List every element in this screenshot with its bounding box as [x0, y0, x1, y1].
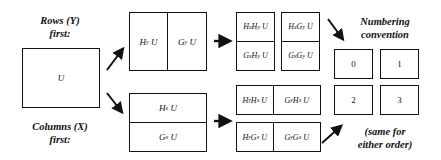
numbering-convention-label: Numbering convention — [345, 15, 425, 41]
numbering-line2: convention — [345, 28, 425, 41]
same-order-line1: (same for — [340, 125, 430, 138]
gxhy-cell: GxHy U — [237, 42, 274, 71]
same-order-label: (same for either order) — [340, 125, 430, 151]
original-image-box: U — [22, 48, 100, 108]
number-1: 1 — [381, 50, 418, 78]
hxgy-cell: HxGy U — [282, 13, 319, 42]
arrow-down-right-icon — [328, 19, 342, 38]
hx-cell: Hx U — [130, 94, 206, 123]
hy-cell: Hy U — [130, 13, 168, 70]
same-order-line2: either order) — [340, 138, 430, 151]
columns-level2-bottom-box: HyGx U GyGx U — [236, 122, 321, 152]
columns-level2-top-box: HyHx U GyHx U — [236, 85, 321, 115]
rows-first-line2: first: — [20, 27, 100, 40]
gygx-cell: GyGx U — [274, 123, 320, 151]
number-box-3: 3 — [380, 85, 419, 115]
arrow-down-icon — [107, 93, 121, 111]
hxhy-cell: HxHy U — [237, 13, 274, 42]
gy-cell: Gy U — [168, 13, 206, 70]
number-3: 3 — [381, 86, 418, 114]
columns-first-label: Columns (X) first: — [15, 120, 105, 146]
rows-first-label: Rows (Y) first: — [20, 14, 100, 40]
rows-level1-box: Hy U Gy U — [129, 12, 207, 71]
gyhx-cell: GyHx U — [274, 86, 320, 114]
number-2: 2 — [335, 86, 372, 114]
hyhx-cell: HyHx U — [237, 86, 274, 114]
number-box-0: 0 — [334, 49, 373, 79]
gxgy-cell: GxGy U — [282, 42, 319, 71]
hygx-cell: HyGx U — [237, 123, 274, 151]
number-box-2: 2 — [334, 85, 373, 115]
arrow-up-right-icon — [322, 127, 340, 143]
arrow-up-icon — [107, 50, 122, 70]
number-0: 0 — [335, 50, 372, 78]
rows-level2-right-box: HxGy U GxGy U — [281, 12, 320, 71]
number-box-1: 1 — [380, 49, 419, 79]
original-cell: U — [23, 49, 99, 107]
rows-level2-left-box: HxHy U GxHy U — [236, 12, 275, 71]
columns-level1-box: Hx U Gx U — [129, 93, 207, 152]
columns-first-line2: first: — [15, 133, 105, 146]
columns-first-line1: Columns (X) — [15, 120, 105, 133]
rows-first-line1: Rows (Y) — [20, 14, 100, 27]
numbering-line1: Numbering — [345, 15, 425, 28]
gx-cell: Gx U — [130, 123, 206, 152]
